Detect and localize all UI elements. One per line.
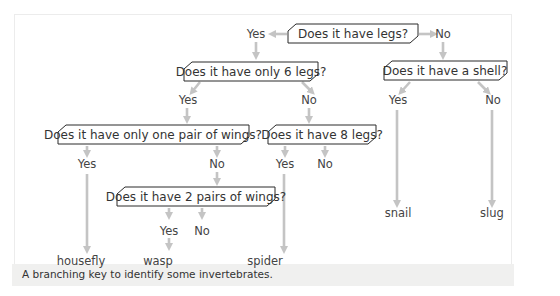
result-wasp: wasp <box>143 254 173 268</box>
svg-text:Does it have 8 legs?: Does it have 8 legs? <box>261 128 383 142</box>
svg-text:Does it have legs?: Does it have legs? <box>298 27 408 41</box>
result-housefly: housefly <box>57 254 106 268</box>
label-no-legs: No <box>435 27 451 41</box>
label-no-shell: No <box>485 93 501 107</box>
label-no-2-pairs: No <box>194 224 210 238</box>
svg-text:Does it have a shell?: Does it have a shell? <box>383 64 508 78</box>
branching-key-diagram: Does it have legs? Does it have only 6 l… <box>0 0 560 296</box>
svg-text:Does it have only one pair of: Does it have only one pair of wings? <box>44 128 262 142</box>
result-spider: spider <box>247 254 283 268</box>
label-yes-8-legs: Yes <box>275 157 295 171</box>
question-box-only-6-legs: Does it have only 6 legs? <box>176 62 327 81</box>
label-no-6-legs: No <box>301 93 317 107</box>
label-yes-one-pair: Yes <box>77 157 97 171</box>
result-slug: slug <box>480 206 504 220</box>
result-snail: snail <box>385 206 412 220</box>
label-yes-shell: Yes <box>388 93 408 107</box>
svg-text:Does it have only 6 legs?: Does it have only 6 legs? <box>176 65 327 79</box>
label-yes-legs: Yes <box>246 27 266 41</box>
svg-text:Does it have 2 pairs of wings?: Does it have 2 pairs of wings? <box>106 190 286 204</box>
question-box-shell: Does it have a shell? <box>383 61 508 80</box>
question-box-one-pair-wings: Does it have only one pair of wings? <box>44 125 262 144</box>
question-box-8-legs: Does it have 8 legs? <box>261 125 383 144</box>
label-no-8-legs: No <box>317 157 333 171</box>
label-no-one-pair: No <box>209 157 225 171</box>
label-yes-6-legs: Yes <box>178 93 198 107</box>
question-box-2-pairs-wings: Does it have 2 pairs of wings? <box>106 187 286 206</box>
question-box-legs: Does it have legs? <box>288 24 418 43</box>
label-yes-2-pairs: Yes <box>159 224 179 238</box>
